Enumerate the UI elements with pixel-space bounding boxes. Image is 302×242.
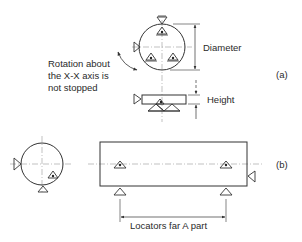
clamp-icon xyxy=(167,53,179,61)
clamp-icon xyxy=(114,161,126,168)
rotation-note-line1: Rotation about xyxy=(48,58,110,69)
circle-view-b xyxy=(10,136,72,192)
diameter-label: Diameter xyxy=(203,42,242,53)
locators-label: Locators far A part xyxy=(130,220,207,231)
fixture-diagram xyxy=(0,0,302,242)
clamp-icon xyxy=(145,53,157,61)
height-view-a xyxy=(134,80,200,119)
clamp-icon xyxy=(220,161,232,168)
height-label: Height xyxy=(207,94,234,105)
side-view-b xyxy=(88,142,262,222)
left-locator-icon xyxy=(134,94,141,104)
rotation-note-line2: the X-X axis is xyxy=(48,70,109,81)
bottom-locator-icon xyxy=(220,188,232,195)
part-a-tag: (a) xyxy=(276,69,288,80)
part-b-tag: (b) xyxy=(276,159,288,170)
right-locator-icon xyxy=(248,171,255,182)
clamp-icon xyxy=(48,171,58,178)
rotation-note-line3: not stopped xyxy=(48,82,98,93)
bottom-locator-icon xyxy=(38,186,48,192)
bottom-locator-icon xyxy=(114,188,126,195)
rotation-arrow-icon xyxy=(118,52,137,70)
